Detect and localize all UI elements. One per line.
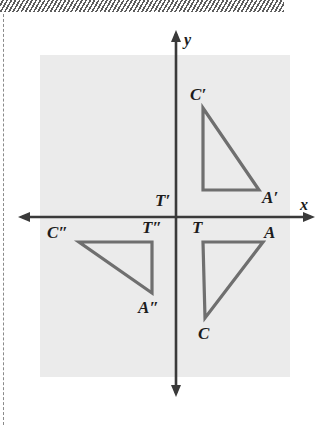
label-C-double-prime: C″ bbox=[47, 224, 68, 241]
triangle-image-prime bbox=[203, 108, 259, 190]
x-axis-arrow-left bbox=[18, 212, 30, 222]
coordinate-plane-figure: C′ A′ T′ T″ T A C C″ A″ y x bbox=[0, 12, 333, 425]
page-root: C′ A′ T′ T″ T A C C″ A″ y x bbox=[0, 0, 333, 425]
y-axis bbox=[171, 30, 181, 397]
diagram-vector-layer bbox=[0, 12, 333, 425]
triangle-image-double-prime bbox=[79, 242, 152, 293]
label-A-prime: A′ bbox=[262, 189, 279, 206]
label-T-double-prime: T″ bbox=[142, 219, 162, 236]
triangle-original bbox=[203, 242, 263, 318]
y-axis-arrow-up bbox=[171, 30, 181, 42]
label-T-prime: T′ bbox=[155, 192, 171, 209]
y-axis-arrow-down bbox=[171, 385, 181, 397]
label-C-prime: C′ bbox=[190, 86, 207, 103]
label-axis-y: y bbox=[184, 32, 191, 48]
x-axis bbox=[18, 212, 315, 222]
label-A-double-prime: A″ bbox=[138, 299, 159, 316]
x-axis-arrow-right bbox=[303, 212, 315, 222]
label-axis-x: x bbox=[300, 197, 308, 213]
hatched-decorative-band bbox=[0, 0, 284, 12]
label-C: C bbox=[198, 325, 210, 342]
label-T: T bbox=[192, 219, 203, 236]
label-A: A bbox=[264, 224, 276, 241]
